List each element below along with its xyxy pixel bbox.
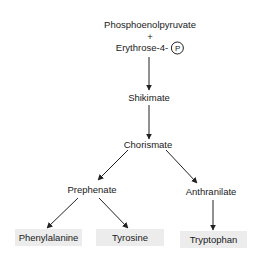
arrow-prephenate-to-tyrosine xyxy=(99,198,128,228)
node-phosphoenolpyruvate: Phosphoenolpyruvate xyxy=(104,20,196,30)
product-tryptophan: Tryptophan xyxy=(180,231,247,248)
node-shikimate: Shikimate xyxy=(128,93,170,103)
phosphate-circle-icon: P xyxy=(171,42,184,55)
product-tyrosine: Tyrosine xyxy=(96,229,164,246)
arrows-layer xyxy=(0,0,253,259)
arrow-chorismate-to-prephenate xyxy=(98,150,128,180)
arrow-chorismate-to-anthranilate xyxy=(166,150,197,183)
arrow-prephenate-to-phenylalanine xyxy=(47,198,78,228)
plus-sign: + xyxy=(147,32,153,42)
product-phenylalanine: Phenylalanine xyxy=(15,229,82,246)
node-anthranilate: Anthranilate xyxy=(186,187,237,197)
node-prephenate: Prephenate xyxy=(67,185,116,195)
erythrose-label: Erythrose-4- xyxy=(116,42,168,53)
node-chorismate: Chorismate xyxy=(124,140,173,150)
node-erythrose-4-phosphate: Erythrose-4-P xyxy=(116,42,184,55)
